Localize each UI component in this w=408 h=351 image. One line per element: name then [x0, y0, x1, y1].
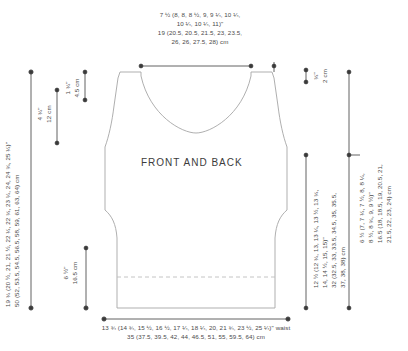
label-bottom-waist-in: 13 ¾ (14 ¾, 15 ½, 16 ½, 17 ¼, 18 ¼, 20, … [20, 324, 372, 333]
dim-dot [304, 68, 308, 72]
label-left-length-in: 19 ¾ (20 ½, 21, 21 ½, 22 ¼, 22 ¾, 23 ¼, … [4, 142, 13, 307]
dim-dot [102, 317, 106, 321]
label-right-body-in: 12 ½ (12 ¾, 13, 13 ¼, 13 ½, 13 ¾, [312, 190, 321, 288]
label-right-neck-cm: 2 cm [321, 58, 330, 94]
label-right-armhole-in-2: 8 ½, 8 ¾, 9, 9 ½)" [367, 164, 376, 243]
dim-dot [29, 306, 33, 310]
label-left-armhole: 4 ¾" 12 cm [36, 87, 54, 141]
dim-dot [249, 64, 253, 68]
label-top-shoulder-in: 7 ½ (8, 8, 8 ½, 9, 9 ¼, 10 ¼, [124, 11, 276, 20]
label-right-armhole-in: 6 ½ (7, 7 ¼, 7 ½, 8, 8 ¼, [358, 164, 367, 243]
dim-dot [83, 70, 87, 74]
dim-dot [84, 306, 88, 310]
label-bottom-waist: 13 ¾ (14 ¾, 15 ½, 16 ½, 17 ¼, 18 ¼, 20, … [20, 324, 372, 342]
label-right-neck: ¾" 2 cm [312, 58, 330, 94]
label-right-body-cm-2: 37, 38, 38) cm [339, 190, 348, 288]
dim-dot [55, 141, 59, 145]
label-left-length: 19 ¾ (20 ½, 21, 21 ½, 22 ¼, 22 ¾, 23 ¼, … [4, 142, 22, 307]
dim-dot [55, 88, 59, 92]
label-bottom-hem-cm: 16.5 cm [71, 246, 80, 300]
garment-title-text: FRONT AND BACK [141, 157, 243, 168]
dim-dot [286, 317, 290, 321]
dim-dot [304, 153, 308, 157]
label-top-shoulder-in-2: 10 ¼, 10 ¼, 11)" [124, 20, 276, 29]
label-right-armhole-cm: 16.5 (18, 18.5, 19, 20.5, 21, [376, 164, 385, 243]
dim-dot [304, 306, 308, 310]
dim-dot [272, 64, 276, 68]
dim-dot [347, 306, 351, 310]
dim-dot [347, 70, 351, 74]
dim-dot [84, 246, 88, 250]
label-shoulder-slope: 1 ¾" 4.5 cm [64, 66, 82, 110]
label-bottom-hem-in: 6 ½" [62, 246, 71, 300]
label-bottom-waist-cm: 35 (37.5, 39.5, 42, 44, 46.5, 51, 55, 59… [20, 333, 372, 342]
schematic-diagram: 7 ½ (8, 8, 8 ½, 9, 9 ¼, 10 ¼, 10 ¼, 10 ¼… [0, 0, 408, 351]
label-top-shoulder-cm: 19 (20.5, 20.5, 21.5, 23, 23.5, [124, 29, 276, 38]
label-left-armhole-in: 4 ¾" [36, 87, 45, 141]
label-right-armhole: 6 ½ (7, 7 ¼, 7 ½, 8, 8 ¼, 8 ½, 8 ¾, 9, 9… [358, 164, 394, 243]
label-shoulder-slope-in: 1 ¾" [64, 66, 73, 110]
label-shoulder-slope-cm: 4.5 cm [73, 66, 82, 110]
label-right-neck-in: ¾" [312, 58, 321, 94]
label-right-body-cm: 32 (32.5, 33, 33.5, 34.5, 35, 35.5, [330, 190, 339, 288]
garment-outline [105, 72, 287, 308]
label-top-shoulder-cm-2: 26, 26, 27.5, 28) cm [124, 38, 276, 47]
label-bottom-hem: 6 ½" 16.5 cm [62, 246, 80, 300]
label-right-armhole-cm-2: 21.5, 22, 23, 24) cm [385, 164, 394, 243]
label-right-body-in-2: 14, 14 ½, 15, 15)" [321, 190, 330, 288]
label-left-armhole-cm: 12 cm [45, 87, 54, 141]
dim-dot [83, 98, 87, 102]
label-top-shoulder: 7 ½ (8, 8, 8 ½, 9, 9 ¼, 10 ¼, 10 ¼, 10 ¼… [124, 11, 276, 47]
dim-dot [304, 80, 308, 84]
label-left-length-cm: 50 (52, 53.5, 54.5, 56.5, 58, 59, 61, 63… [13, 142, 22, 307]
label-right-body: 12 ½ (12 ¾, 13, 13 ¼, 13 ½, 13 ¾, 14, 14… [312, 190, 348, 288]
dim-dot [139, 64, 143, 68]
dim-dot [29, 70, 33, 74]
